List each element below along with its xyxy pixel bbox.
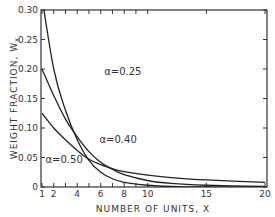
y-tick-label: 0.30 [18, 5, 38, 15]
weight-fraction-chart: 1246810152000.050.100.150.200.250.30 α=0… [0, 0, 275, 217]
x-axis-title: NUMBER OF UNITS, X [96, 204, 210, 214]
x-tick-label: 1 [39, 189, 45, 199]
y-tick-label: 0 [32, 182, 38, 192]
series-annotation: α=0.50 [46, 154, 83, 165]
axis-ticks: 1246810152000.050.100.150.200.250.30 [18, 5, 271, 199]
x-tick-label: 8 [121, 189, 127, 199]
x-tick-label: 6 [98, 189, 104, 199]
series-annotation: α=0.25 [104, 66, 141, 77]
x-tick-label: 2 [51, 189, 57, 199]
y-tick-label: 0.10 [18, 123, 38, 133]
y-tick-label: 0.20 [18, 64, 38, 74]
series-line [42, 113, 265, 182]
series-annotations: α=0.25α=0.40α=0.50 [46, 66, 142, 165]
x-tick-label: 4 [74, 189, 80, 199]
x-tick-label: 15 [201, 189, 212, 199]
y-tick-label: 0.15 [18, 94, 38, 104]
x-tick-label: 20 [259, 189, 271, 199]
y-tick-label: 0.05 [18, 153, 38, 163]
x-tick-label: 10 [142, 189, 154, 199]
series-line [42, 69, 265, 186]
series-annotation: α=0.40 [100, 134, 137, 145]
